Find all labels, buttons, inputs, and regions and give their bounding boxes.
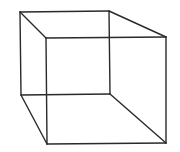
necker-cube-diagram <box>0 0 180 152</box>
cube-edge-front-bottom-left-to-front-top-left <box>46 38 47 144</box>
cube-edge-back-bottom-right-to-back-bottom-left <box>21 94 110 95</box>
cube-edge-back-top-left-to-front-top-left <box>20 12 46 38</box>
cube-edge-back-top-left-to-back-top-right <box>20 11 109 12</box>
cube-wireframe <box>0 0 180 152</box>
cube-edge-back-top-right-to-back-bottom-right <box>109 11 110 94</box>
cube-edge-front-bottom-right-to-front-bottom-left <box>47 143 166 144</box>
cube-edge-back-bottom-right-to-front-bottom-right <box>110 94 166 143</box>
cube-edge-back-top-right-to-front-top-right <box>109 11 166 37</box>
cube-edge-front-top-left-to-front-top-right <box>46 37 166 38</box>
cube-edge-back-bottom-left-to-front-bottom-left <box>21 95 47 144</box>
cube-edge-back-bottom-left-to-back-top-left <box>20 12 21 95</box>
